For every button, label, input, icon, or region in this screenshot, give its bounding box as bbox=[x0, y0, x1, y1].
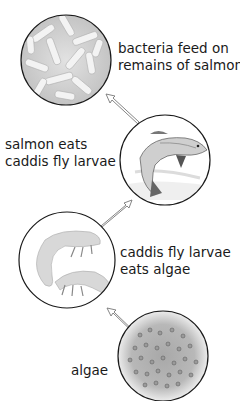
caddis-larvae-icon bbox=[19, 212, 115, 308]
bacteria-icon bbox=[21, 13, 111, 105]
algae-icon bbox=[118, 311, 208, 401]
algae-label-line1: algae bbox=[71, 362, 108, 379]
larvae-label: caddis fly larvae eats algae bbox=[120, 244, 231, 278]
salmon-icon bbox=[120, 115, 210, 205]
algae-label: algae bbox=[71, 362, 108, 379]
salmon-label-line1: salmon eats bbox=[5, 136, 116, 153]
salmon-label: salmon eats caddis fly larvae bbox=[5, 136, 116, 170]
arrow-larvae-to-salmon bbox=[101, 200, 132, 227]
bacteria-label-line2: remains of salmon bbox=[118, 57, 240, 74]
larvae-label-line2: eats algae bbox=[120, 261, 231, 278]
bacteria-label-line1: bacteria feed on bbox=[118, 40, 240, 57]
larvae-label-line1: caddis fly larvae bbox=[120, 244, 231, 261]
salmon-label-line2: caddis fly larvae bbox=[5, 153, 116, 170]
bacteria-label: bacteria feed on remains of salmon bbox=[118, 40, 240, 74]
arrow-salmon-to-bacteria bbox=[106, 94, 139, 124]
